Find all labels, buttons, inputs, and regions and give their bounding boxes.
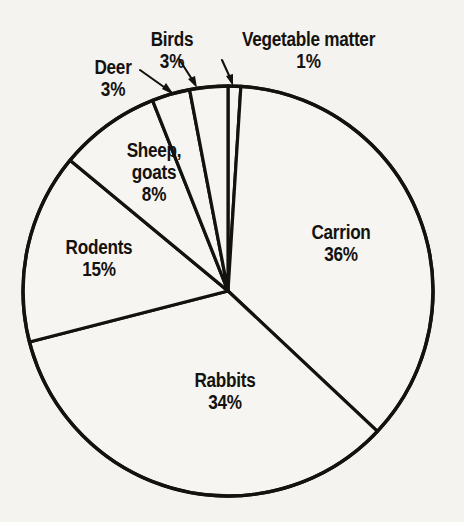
pie-label-birds-name: Birds — [141, 29, 203, 51]
pie-label-birds-percent: 3% — [141, 51, 203, 73]
pie-label-carrion: Carrion 36% — [294, 222, 387, 266]
pie-slices — [23, 86, 433, 496]
pie-label-deer-percent: 3% — [82, 79, 144, 101]
pie-label-sheep-goats-name-2: goats — [110, 162, 198, 184]
pie-label-rabbits-name: Rabbits — [178, 370, 271, 392]
pie-label-deer-name: Deer — [82, 57, 144, 79]
leader-deer — [140, 70, 174, 95]
pie-label-carrion-name: Carrion — [294, 222, 387, 244]
pie-label-vegetable-matter: Vegetable matter 1% — [227, 29, 390, 73]
pie-label-rodents-percent: 15% — [52, 259, 145, 281]
pie-label-rodents-name: Rodents — [52, 237, 145, 259]
pie-label-deer: Deer 3% — [82, 57, 144, 101]
pie-label-sheep-goats-percent: 8% — [110, 184, 198, 206]
pie-chart-figure: Deer 3% Birds 3% Vegetable matter 1% She… — [0, 0, 464, 522]
pie-label-rodents: Rodents 15% — [52, 237, 145, 281]
pie-label-vegetable-matter-percent: 1% — [227, 51, 390, 73]
pie-label-rabbits-percent: 34% — [178, 392, 271, 414]
pie-label-sheep-goats-name-1: Sheep, — [110, 140, 198, 162]
pie-label-carrion-percent: 36% — [294, 244, 387, 266]
pie-label-vegetable-matter-name: Vegetable matter — [227, 29, 390, 51]
pie-label-birds: Birds 3% — [141, 29, 203, 73]
pie-label-sheep-goats: Sheep, goats 8% — [110, 140, 198, 205]
pie-label-rabbits: Rabbits 34% — [178, 370, 271, 414]
